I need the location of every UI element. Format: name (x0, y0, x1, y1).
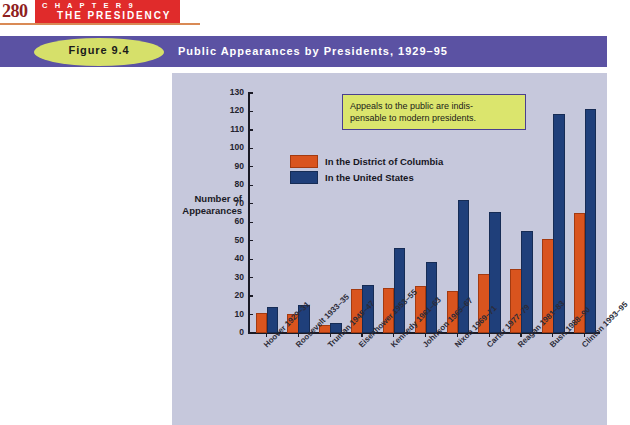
y-axis-tick-label: 120 (218, 105, 244, 115)
bar-us (394, 248, 406, 333)
legend-swatch (290, 171, 318, 184)
y-axis-tick-label: 0 (218, 327, 244, 337)
annotation-text: Appeals to the public are indis-pensable… (350, 100, 518, 124)
figure-number: Figure 9.4 (34, 44, 164, 56)
chapter-title: THE PRESIDENCY (57, 10, 171, 21)
legend-item: In the United States (290, 171, 443, 184)
figure-title: Public Appearances by Presidents, 1929–9… (178, 45, 448, 57)
header-rule (0, 23, 200, 25)
bar-dc (256, 313, 268, 333)
y-axis-tick-label: 20 (218, 290, 244, 300)
legend-label: In the District of Columbia (325, 156, 443, 167)
y-axis-tick-label: 60 (218, 216, 244, 226)
y-axis-tick-label: 40 (218, 253, 244, 263)
annotation-callout: Appeals to the public are indis-pensable… (342, 94, 526, 130)
y-axis-tick-label: 50 (218, 235, 244, 245)
y-axis-tick-label: 130 (218, 87, 244, 97)
y-axis-tick-label: 10 (218, 309, 244, 319)
y-axis-tick-label: 30 (218, 272, 244, 282)
y-axis-tick-label: 90 (218, 161, 244, 171)
y-axis-tick-label: 70 (218, 198, 244, 208)
legend-label: In the United States (325, 172, 414, 183)
y-axis-tick-label: 110 (218, 124, 244, 134)
y-axis-tick-label: 100 (218, 142, 244, 152)
legend-item: In the District of Columbia (290, 155, 443, 168)
page-number: 280 (2, 1, 28, 22)
legend-swatch (290, 155, 318, 168)
chart-legend: In the District of ColumbiaIn the United… (290, 155, 443, 187)
chart-panel: Number of Appearances 010203040506070809… (172, 73, 607, 425)
y-axis-tick-label: 80 (218, 179, 244, 189)
chapter-label: C H A P T E R 9 (42, 1, 135, 10)
page-header: 280 C H A P T E R 9 THE PRESIDENCY (0, 0, 607, 32)
bar-us (585, 109, 597, 333)
